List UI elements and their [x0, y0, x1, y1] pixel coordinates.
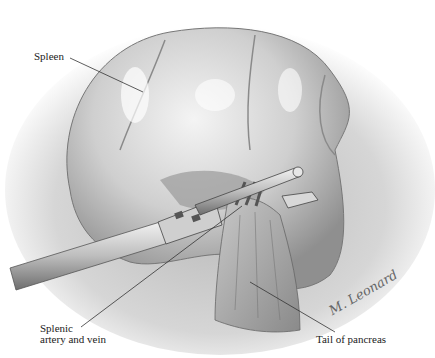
highlight [195, 79, 235, 111]
label-tail-of-pancreas: Tail of pancreas [316, 334, 386, 345]
jaw-tip [293, 167, 303, 177]
highlight [278, 68, 302, 112]
illustration [0, 0, 435, 358]
label-line-2: artery and vein [40, 334, 106, 345]
label-spleen: Spleen [34, 51, 64, 62]
label-splenic-artery-vein: Splenic artery and vein [40, 323, 106, 345]
highlight [121, 67, 149, 123]
